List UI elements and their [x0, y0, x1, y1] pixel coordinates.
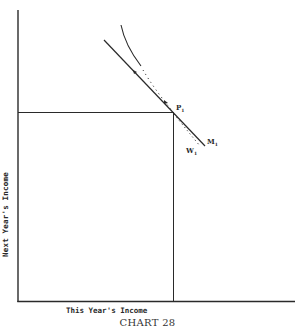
- chart-caption: CHART 28: [0, 317, 295, 328]
- point-p1-label: P1: [176, 103, 184, 113]
- curve-w1-dotted-lower: [174, 114, 200, 146]
- line-m1: [104, 40, 205, 146]
- chart-canvas: P1 M1 W1: [0, 0, 295, 330]
- curve-w1-solid: [121, 25, 141, 66]
- curve-w1-dotted-upper: [143, 70, 173, 112]
- arrow-mark-lower: [164, 100, 168, 104]
- curve-w1-label: W1: [185, 146, 197, 156]
- y-axis-label: Next Year's Income: [1, 160, 15, 270]
- line-m1-label: M1: [207, 137, 218, 147]
- x-axis-label: This Year's Income: [66, 306, 186, 315]
